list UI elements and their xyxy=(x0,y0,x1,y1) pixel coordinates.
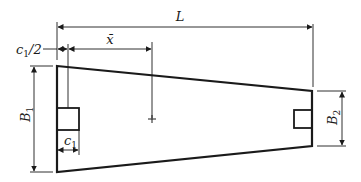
label-c1-sub: 1 xyxy=(71,140,77,150)
svg-text:B1: B1 xyxy=(18,107,35,123)
centroid-marker xyxy=(148,42,156,123)
dimension-c1: c1 xyxy=(58,130,79,155)
label-x-bar: x̄ xyxy=(106,32,114,47)
dimension-B1: B1 xyxy=(18,66,53,172)
left-column xyxy=(57,108,79,130)
svg-text:B2: B2 xyxy=(325,110,342,126)
dimension-c1-half: c1/2 xyxy=(16,42,68,108)
right-column xyxy=(294,110,312,128)
dimension-L: L xyxy=(57,9,313,87)
label-L: L xyxy=(175,9,185,24)
footing-outline xyxy=(57,66,312,172)
label-B1-sub: 1 xyxy=(25,107,35,113)
svg-text:c1/2: c1/2 xyxy=(16,42,42,59)
dimension-B2: B2 xyxy=(317,91,346,146)
footing-diagram: L c1/2 x̄ c1 B1 B2 xyxy=(0,0,361,182)
label-B2-sub: 2 xyxy=(332,110,342,116)
label-c1-half-suffix: /2 xyxy=(27,42,42,57)
svg-text:c1: c1 xyxy=(64,133,77,150)
label-B2-main: B xyxy=(325,115,340,126)
label-B1-main: B xyxy=(18,112,33,123)
dimension-x-bar: x̄ xyxy=(69,32,151,49)
